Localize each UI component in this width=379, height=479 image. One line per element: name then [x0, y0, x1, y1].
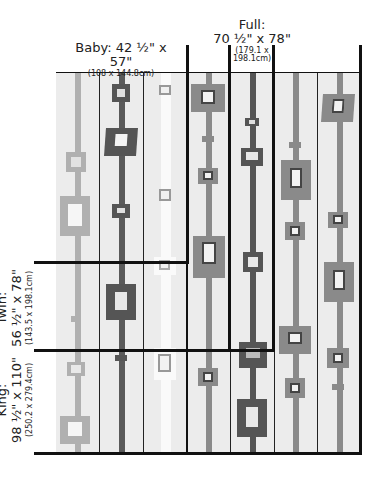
- king-frame-right: [359, 45, 362, 455]
- king-imperial: 98 ½" x 110": [10, 355, 25, 445]
- full-imperial: 70 ½" x 78": [200, 32, 304, 46]
- square-block: [159, 189, 171, 201]
- full-size-label: Full: 70 ½" x 78" (179.1 x 198.1cm): [200, 18, 304, 64]
- square-block: [285, 378, 305, 398]
- quilt-column-5: [230, 72, 274, 452]
- square-block: [289, 142, 301, 148]
- square-block: [191, 84, 225, 112]
- square-block: [104, 128, 138, 156]
- square-block: [112, 204, 130, 218]
- square-block: [328, 212, 348, 228]
- twin-frame-bottom: [34, 349, 275, 352]
- square-block: [332, 384, 344, 390]
- square-block: [202, 136, 214, 142]
- square-block: [281, 160, 311, 200]
- square-block: [198, 168, 218, 184]
- square-block: [115, 355, 127, 361]
- square-block: [154, 348, 176, 380]
- baby-name: Baby:: [75, 40, 111, 55]
- square-block: [112, 84, 130, 102]
- square-block: [198, 368, 218, 386]
- twin-metric: (143.5 x 198.1cm): [25, 265, 34, 351]
- square-block: [60, 196, 90, 236]
- square-block: [154, 257, 176, 275]
- square-block: [237, 399, 267, 437]
- square-block: [324, 262, 354, 302]
- square-block: [279, 326, 311, 354]
- square-block: [243, 252, 263, 272]
- baby-imperial: 42 ½" x 57": [110, 40, 167, 69]
- square-block: [239, 342, 267, 368]
- full-frame-right: [272, 45, 275, 351]
- baby-frame-bottom: [34, 261, 189, 264]
- square-block: [193, 236, 225, 278]
- square-block: [159, 85, 171, 95]
- king-size-label: King: 98 ½" x 110" (250.2 x 279.4cm): [0, 355, 35, 445]
- square-block: [245, 118, 259, 126]
- quilt-column-7: [317, 72, 361, 452]
- baby-frame-right: [186, 45, 189, 263]
- full-metric-line2: 198.1cm): [200, 55, 304, 64]
- square-block: [321, 94, 355, 122]
- square-block: [60, 416, 90, 444]
- quilt-column-4: [186, 72, 230, 452]
- square-block: [106, 284, 136, 320]
- quilt-column-6: [274, 72, 317, 452]
- twin-size-label: Twin: 56 ½" x 78" (143.5 x 198.1cm): [0, 265, 35, 351]
- square-block: [67, 362, 85, 376]
- baby-size-label: Baby: 42 ½" x 57" (108 x 144.8cm): [62, 41, 180, 78]
- twin-imperial: 56 ½" x 78": [10, 265, 25, 351]
- baby-metric: (108 x 144.8cm): [62, 70, 180, 79]
- square-block: [241, 148, 263, 166]
- square-block: [71, 316, 81, 322]
- square-block: [285, 222, 305, 240]
- full-frame-left: [228, 45, 231, 351]
- square-block: [66, 152, 86, 172]
- full-name: Full:: [200, 18, 304, 32]
- king-frame-bottom: [34, 452, 362, 455]
- king-metric: (250.2 x 279.4cm): [25, 355, 34, 445]
- square-block: [327, 348, 349, 368]
